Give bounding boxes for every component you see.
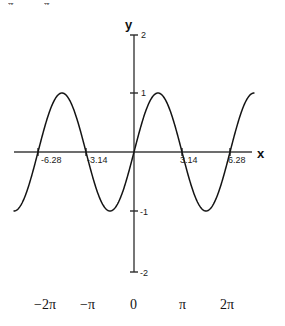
y-tick-label-2: 2	[141, 31, 146, 40]
x-tick-label-neg-pi: -3.14	[87, 156, 108, 165]
pi-label-zero: 0	[130, 298, 137, 312]
pi-label-pi: π	[179, 298, 186, 312]
x-tick-label-pi: 3.14	[180, 156, 198, 165]
sine-wave-figure: π π y x -6.28 -3.14 3.14 6.28 2 1 -1 -2 …	[0, 0, 285, 326]
pi-label-neg-pi: −π	[80, 298, 95, 312]
x-tick-label-neg-2pi: -6.28	[41, 156, 62, 165]
pi-label-row: −2π −π 0 π 2π	[0, 298, 285, 322]
pi-label-neg-2pi: −2π	[34, 298, 56, 312]
y-axis-label: y	[125, 18, 132, 31]
y-tick-label-neg-2: -2	[140, 269, 148, 278]
y-tick-label-1: 1	[141, 89, 146, 98]
y-tick-label-neg-1: -1	[140, 208, 148, 217]
x-axis-label: x	[257, 147, 264, 160]
x-tick-label-2pi: 6.28	[228, 156, 246, 165]
pi-label-2pi: 2π	[220, 298, 234, 312]
